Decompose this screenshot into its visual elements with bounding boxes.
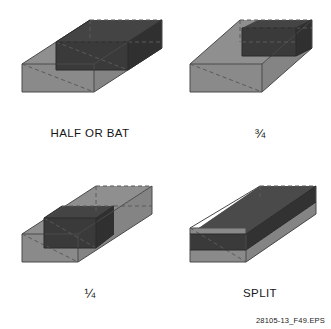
brick-diagram-three-quarter: [186, 12, 321, 124]
cut-slab-front-face: [190, 234, 246, 250]
figure-credit: 28105-13_F49.EPS: [256, 316, 325, 325]
brick-diagram-quarter: [18, 178, 163, 290]
brick-diagram-half-or-bat: [18, 12, 170, 124]
half-or-bat-svg: [18, 12, 170, 124]
caption-split: SPLIT: [180, 287, 331, 299]
three-quarter-svg: [186, 12, 321, 124]
brick-front-below-slab: [190, 250, 246, 262]
brick-diagram-split: [186, 178, 326, 290]
quarter-svg: [18, 178, 163, 290]
caption-quarter: ¼: [10, 286, 170, 301]
split-svg: [186, 178, 326, 290]
brick-cuts-figure: HALF OR BAT: [0, 0, 331, 329]
caption-three-quarter: ¾: [180, 126, 331, 141]
caption-half-or-bat: HALF OR BAT: [10, 127, 170, 139]
